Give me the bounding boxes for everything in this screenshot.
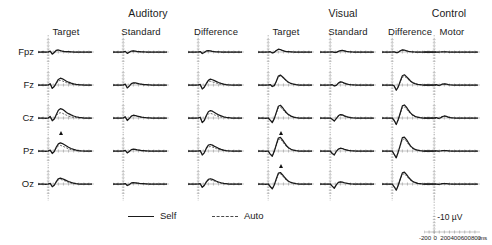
- row-label-cz: Cz: [2, 112, 34, 123]
- row-label-pz: Pz: [2, 145, 34, 156]
- waveform-panel: [113, 68, 169, 102]
- waveform-panel: [188, 134, 244, 168]
- waveform-panel: [258, 68, 314, 102]
- group-title-auditory: Auditory: [108, 7, 188, 19]
- group-title-visual: Visual: [303, 7, 383, 19]
- waveform-panel: [424, 134, 480, 168]
- waveform-panel: [38, 134, 94, 168]
- waveform-panel: [424, 101, 480, 135]
- waveform-panel: [113, 167, 169, 201]
- scale-amplitude-label: -10 µV: [437, 212, 462, 222]
- waveform-panel: [258, 101, 314, 135]
- waveform-panel: [113, 101, 169, 135]
- time-unit-label: ms: [479, 234, 487, 241]
- waveform-panel: [113, 134, 169, 168]
- row-label-oz: Oz: [2, 178, 34, 189]
- legend-label-self: Self: [160, 210, 176, 221]
- waveform-panel: [320, 167, 376, 201]
- waveform-panel: [38, 101, 94, 135]
- waveform-panel: [258, 167, 314, 201]
- waveform-panel: [188, 68, 244, 102]
- waveform-panel: [258, 134, 314, 168]
- waveform-panel: [38, 167, 94, 201]
- legend-label-auto: Auto: [244, 210, 264, 221]
- row-label-fpz: Fpz: [2, 46, 34, 57]
- waveform-panel: [113, 35, 169, 69]
- waveform-panel: [188, 167, 244, 201]
- waveform-panel: [320, 134, 376, 168]
- waveform-panel: [188, 101, 244, 135]
- waveform-panel: [320, 68, 376, 102]
- row-label-fz: Fz: [2, 79, 34, 90]
- waveform-panel: [38, 35, 94, 69]
- group-title-control: Control: [409, 7, 489, 19]
- waveform-panel: [424, 68, 480, 102]
- waveform-panel: [188, 35, 244, 69]
- legend-swatch-auto: [212, 216, 238, 217]
- waveform-panel: [320, 101, 376, 135]
- waveform-panel: [258, 35, 314, 69]
- waveform-panel: [320, 35, 376, 69]
- waveform-panel: [424, 35, 480, 69]
- legend-swatch-self: [128, 216, 154, 217]
- waveform-panel: [38, 68, 94, 102]
